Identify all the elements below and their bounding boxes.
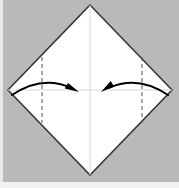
diagram-canvas: [0, 0, 179, 188]
background-bottom-band: [0, 182, 179, 188]
origami-diagram: [0, 0, 179, 188]
background-left-band: [0, 0, 3, 182]
